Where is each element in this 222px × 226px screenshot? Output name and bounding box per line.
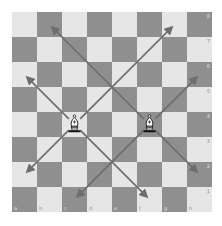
square-f2[interactable] [137, 162, 162, 187]
square-b2[interactable] [37, 162, 62, 187]
square-e4[interactable] [112, 112, 137, 137]
square-e5[interactable] [112, 87, 137, 112]
rank-label: 6 [207, 64, 210, 69]
rank-label: 7 [207, 39, 210, 44]
square-f6[interactable] [137, 62, 162, 87]
square-g3[interactable] [162, 137, 187, 162]
file-label: h [189, 206, 192, 211]
square-g4[interactable] [162, 112, 187, 137]
file-label: c [64, 206, 67, 211]
square-b8[interactable] [37, 12, 62, 37]
square-c2[interactable] [62, 162, 87, 187]
square-a8[interactable] [12, 12, 37, 37]
square-f3[interactable] [137, 137, 162, 162]
square-d2[interactable] [87, 162, 112, 187]
square-h1[interactable]: h1 [187, 187, 212, 212]
chessboard: 8765432abcdefgh1 [12, 12, 212, 212]
file-label: b [39, 206, 42, 211]
square-d1[interactable]: d [87, 187, 112, 212]
square-d7[interactable] [87, 37, 112, 62]
square-g6[interactable] [162, 62, 187, 87]
square-a7[interactable] [12, 37, 37, 62]
square-a1[interactable]: a [12, 187, 37, 212]
square-f1[interactable]: f [137, 187, 162, 212]
square-h7[interactable]: 7 [187, 37, 212, 62]
square-c5[interactable] [62, 87, 87, 112]
square-b7[interactable] [37, 37, 62, 62]
square-c4[interactable] [62, 112, 87, 137]
rank-label: 3 [207, 139, 210, 144]
square-e1[interactable]: e [112, 187, 137, 212]
square-d8[interactable] [87, 12, 112, 37]
square-e3[interactable] [112, 137, 137, 162]
square-b3[interactable] [37, 137, 62, 162]
square-c8[interactable] [62, 12, 87, 37]
rank-label: 5 [207, 89, 210, 94]
square-h8[interactable]: 8 [187, 12, 212, 37]
square-d6[interactable] [87, 62, 112, 87]
square-f4[interactable] [137, 112, 162, 137]
file-label: f [139, 206, 141, 211]
square-g2[interactable] [162, 162, 187, 187]
square-a6[interactable] [12, 62, 37, 87]
square-e6[interactable] [112, 62, 137, 87]
square-e2[interactable] [112, 162, 137, 187]
square-f7[interactable] [137, 37, 162, 62]
square-h2[interactable]: 2 [187, 162, 212, 187]
file-label: e [114, 206, 117, 211]
square-h3[interactable]: 3 [187, 137, 212, 162]
rank-label: 8 [207, 14, 210, 19]
square-g8[interactable] [162, 12, 187, 37]
file-label: a [14, 206, 17, 211]
rank-label: 4 [207, 114, 210, 119]
square-c6[interactable] [62, 62, 87, 87]
square-b1[interactable]: b [37, 187, 62, 212]
square-e8[interactable] [112, 12, 137, 37]
square-h5[interactable]: 5 [187, 87, 212, 112]
square-a5[interactable] [12, 87, 37, 112]
square-g5[interactable] [162, 87, 187, 112]
square-d4[interactable] [87, 112, 112, 137]
square-b6[interactable] [37, 62, 62, 87]
square-f5[interactable] [137, 87, 162, 112]
square-c7[interactable] [62, 37, 87, 62]
square-c1[interactable]: c [62, 187, 87, 212]
square-g1[interactable]: g [162, 187, 187, 212]
square-f8[interactable] [137, 12, 162, 37]
square-b5[interactable] [37, 87, 62, 112]
square-h6[interactable]: 6 [187, 62, 212, 87]
square-a4[interactable] [12, 112, 37, 137]
rank-label: 2 [207, 164, 210, 169]
rank-label: 1 [207, 189, 210, 194]
square-d5[interactable] [87, 87, 112, 112]
square-g7[interactable] [162, 37, 187, 62]
square-a3[interactable] [12, 137, 37, 162]
square-b4[interactable] [37, 112, 62, 137]
square-c3[interactable] [62, 137, 87, 162]
square-h4[interactable]: 4 [187, 112, 212, 137]
square-a2[interactable] [12, 162, 37, 187]
square-e7[interactable] [112, 37, 137, 62]
file-label: g [164, 206, 167, 211]
square-d3[interactable] [87, 137, 112, 162]
file-label: d [89, 206, 92, 211]
